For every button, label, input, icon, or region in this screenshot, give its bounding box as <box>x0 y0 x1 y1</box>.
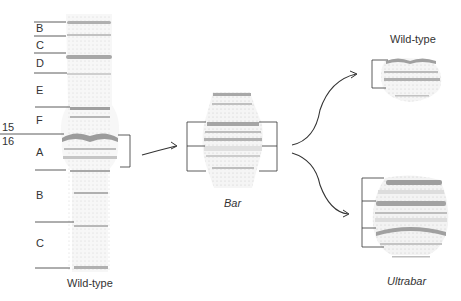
region-label-d: D <box>36 58 44 69</box>
section-number-15: 15 <box>2 122 14 133</box>
region-label-c-lower: C <box>36 238 44 249</box>
region-label-a: A <box>36 147 43 158</box>
arrow-to-bar <box>142 146 176 155</box>
region-label-e: E <box>36 85 43 96</box>
section-number-16: 16 <box>2 136 14 147</box>
left-chromosome <box>61 14 119 272</box>
arrow-to-wildtype <box>292 74 356 145</box>
caption-wildtype-left: Wild-type <box>67 278 113 289</box>
wildtype-right-chromosome <box>381 58 441 102</box>
left-bracket <box>118 135 130 167</box>
diagram-canvas <box>0 0 461 301</box>
caption-wildtype-right: Wild-type <box>390 34 436 45</box>
ultrabar-chromosome <box>373 175 449 257</box>
bar-chromosome <box>202 92 263 188</box>
region-label-b-lower: B <box>36 190 43 201</box>
caption-bar: Bar <box>224 198 241 209</box>
region-label-c-upper: C <box>36 40 44 51</box>
region-label-b-upper: B <box>36 23 43 34</box>
arrow-to-ultrabar <box>292 153 348 214</box>
caption-ultrabar: Ultrabar <box>387 276 426 287</box>
region-label-f: F <box>36 115 43 126</box>
